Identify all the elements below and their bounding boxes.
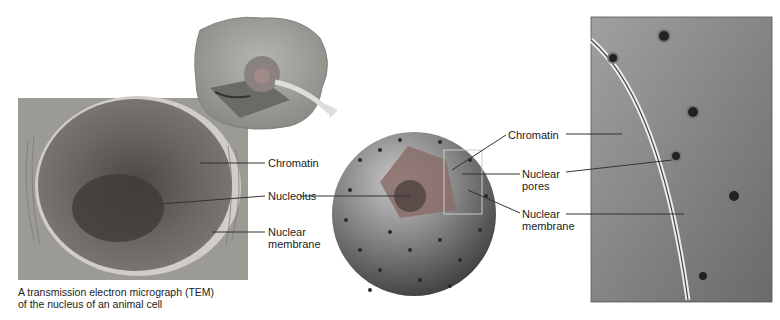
label-nuclear-membrane-sphere-2: membrane [522,220,575,232]
label-nucleolus: Nucleolus [268,190,316,202]
label-nuclear-pores-1: Nuclear [522,168,560,180]
label-nuclear-membrane-sphere-1: Nuclear [522,208,560,220]
caption-line-2: of the nucleus of an animal cell [18,298,258,310]
caption-line-1: A transmission electron micrograph (TEM) [18,286,258,298]
figure-canvas [0,0,780,320]
label-chromatin-tem: Chromatin [268,157,319,169]
figure-caption: A transmission electron micrograph (TEM)… [18,286,258,310]
label-chromatin-sphere: Chromatin [508,129,559,141]
label-nuclear-pores-2: pores [522,180,550,192]
nucleus-sphere-illustration [332,132,496,296]
label-nuclear-membrane-tem-2: membrane [268,238,321,250]
membrane-detail-illustration [591,17,772,302]
cell-cutaway-illustration [195,17,338,129]
tem-micrograph [18,96,248,280]
label-nuclear-membrane-tem-1: Nuclear [268,226,306,238]
